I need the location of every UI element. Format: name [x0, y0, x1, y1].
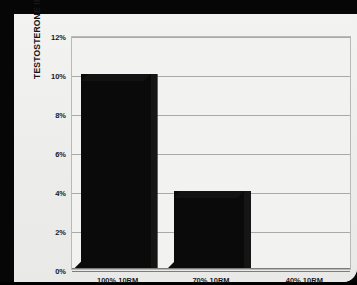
bar — [81, 74, 151, 269]
x-axis-tick-label: 70% 10RM — [192, 276, 229, 285]
gridline — [72, 271, 350, 272]
plot-area: 0%2%4%6%8%10%12% — [71, 36, 351, 270]
bar-side-face — [244, 191, 251, 269]
gridline — [72, 37, 350, 38]
y-axis-tick-label: 12% — [51, 33, 66, 42]
y-axis-tick-label: 4% — [55, 189, 66, 198]
y-axis-tick-label: 0% — [55, 267, 66, 276]
x-axis-line — [72, 268, 350, 270]
bar-side-face — [151, 74, 158, 269]
y-axis-tick-label: 6% — [55, 150, 66, 159]
bar-front-face — [174, 191, 244, 269]
bar-top-face — [81, 74, 151, 81]
bar-chart: TESTOSTERONE INCREASE 0%2%4%6%8%10%12% 1… — [14, 14, 357, 282]
bar-front-face — [81, 74, 151, 269]
y-axis-title: TESTOSTERONE INCREASE — [32, 0, 42, 84]
bar-top-face — [174, 191, 244, 198]
bar — [174, 191, 244, 269]
y-axis-tick-label: 10% — [51, 72, 66, 81]
y-axis-tick-label: 2% — [55, 228, 66, 237]
x-axis-tick-label: 100% 10RM — [97, 276, 138, 285]
chart-card: TESTOSTERONE INCREASE 0%2%4%6%8%10%12% 1… — [14, 14, 357, 282]
x-axis-tick-label: 40% 10RM — [286, 276, 323, 285]
y-axis-tick-label: 8% — [55, 111, 66, 120]
